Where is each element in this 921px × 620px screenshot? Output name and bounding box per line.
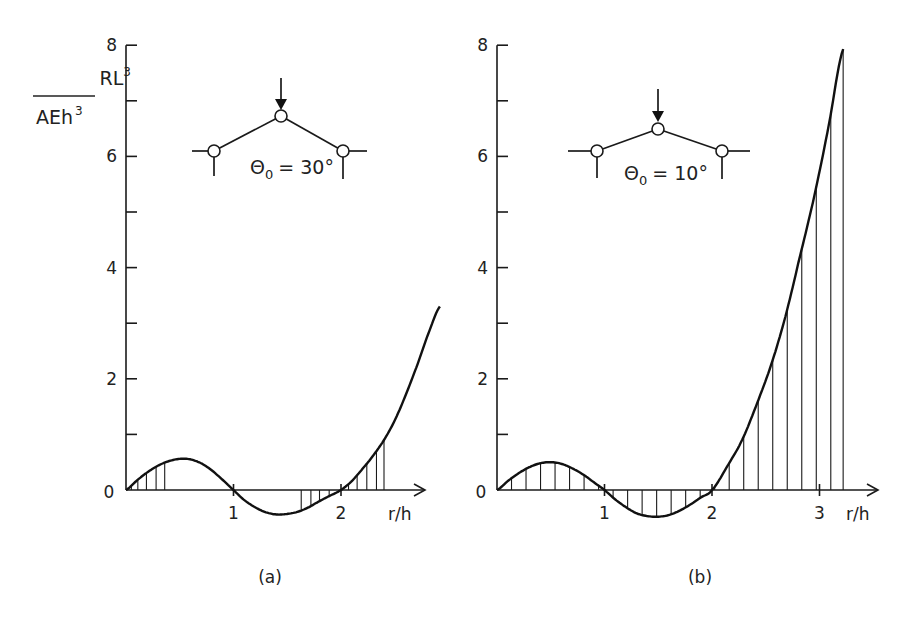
origin-label-a: 0 (104, 482, 115, 502)
y-label-denominator: AEh3 (36, 104, 83, 128)
angle-label-b: Θ0= 10° (624, 162, 708, 188)
y-tick-label: 8 (477, 35, 488, 55)
hatch-group-a (131, 440, 384, 511)
x-label-a: r/h (388, 504, 412, 524)
y-tick-label: 6 (106, 146, 117, 166)
y-tick-label: 2 (477, 369, 488, 389)
panel-a: 246812 RL3 AEh3 0 r/h (a) Θ0= 30° (33, 35, 440, 587)
y-tick-label: 4 (477, 258, 488, 278)
panel-caption-b: (b) (688, 567, 712, 587)
joint-node-top-a (275, 110, 287, 122)
figure: 246812 RL3 AEh3 0 r/h (a) Θ0= 30° 246812 (0, 0, 921, 620)
series-line-a (126, 307, 440, 515)
structure-inset-a: Θ0= 30° (192, 78, 367, 182)
y-tick-label: 2 (106, 369, 117, 389)
joint-node-top-b (652, 123, 664, 135)
x-tick-label: 1 (599, 503, 610, 523)
origin-label-b: 0 (476, 482, 487, 502)
structure-inset-b: Θ0= 10° (568, 89, 750, 188)
x-tick-label: 2 (336, 503, 347, 523)
y-tick-label: 8 (106, 35, 117, 55)
load-arrow-icon (652, 111, 664, 122)
joint-node-right-a (337, 145, 349, 157)
x-tick-label: 2 (707, 503, 718, 523)
series-line-b (497, 49, 843, 517)
joint-node-left-b (591, 145, 603, 157)
load-arrow-icon (275, 99, 287, 110)
joint-node-left-a (208, 145, 220, 157)
x-label-b: r/h (846, 504, 870, 524)
ticks-a: 246812 (106, 35, 346, 523)
x-tick-label: 3 (814, 503, 825, 523)
y-tick-label: 6 (477, 146, 488, 166)
panel-b: 2468123 0 r/h (b) Θ0= 10° (476, 35, 878, 587)
y-tick-label: 4 (106, 258, 117, 278)
joint-node-right-b (716, 145, 728, 157)
x-tick-label: 1 (228, 503, 239, 523)
panel-caption-a: (a) (258, 567, 282, 587)
angle-label-a: Θ0= 30° (250, 156, 334, 182)
